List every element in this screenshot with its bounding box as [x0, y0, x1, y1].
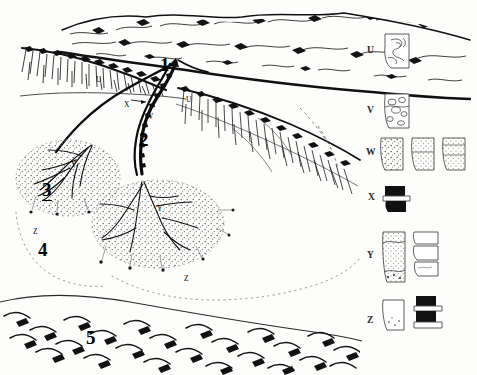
diagram-letter-x-scarp: X: [124, 101, 129, 109]
legend-letter-x: X: [368, 192, 375, 202]
legend-sample-Z-1: [383, 300, 404, 330]
legend-letter-u: U: [367, 45, 374, 55]
diagram-number-4: 4: [38, 240, 48, 259]
legend-sample-W-1: [381, 138, 403, 170]
diagram-letter-z-center: Z: [184, 275, 189, 283]
diagram-letter-u-left: U: [96, 76, 101, 84]
right-escarpment: [176, 86, 360, 194]
diagram-number-3: 3: [42, 180, 52, 201]
diagram-letter-y-left-fan: Y: [71, 161, 76, 169]
annotation-leader-x: [131, 100, 146, 104]
legend-sample-V: [385, 94, 409, 128]
legend-letter-v: V: [367, 105, 374, 115]
diagram-letter-z-left: Z: [33, 228, 38, 236]
legend-sample-Z-2: [414, 296, 442, 328]
legend-sample-W-2: [412, 138, 434, 170]
figure-canvas: 1 2 3 4 5 U U X W Y Y Z Z U V W X Y Z: [0, 0, 477, 375]
legend-sample-U: [385, 34, 409, 68]
legend-sample-Y-2: [413, 232, 438, 276]
legend-letter-z: Z: [367, 315, 373, 325]
diagram-letter-w-channel: W: [146, 113, 153, 121]
diagram-number-2: 2: [139, 130, 149, 149]
legend-sample-W-3: [443, 138, 465, 170]
foreground-slope: [0, 295, 362, 375]
legend-letter-w: W: [366, 147, 376, 157]
legend-sample-Y-1: [383, 232, 405, 282]
diagram-letter-y-center-fan: Y: [157, 205, 162, 213]
diagram-number-5: 5: [86, 328, 96, 347]
legend-letter-y: Y: [367, 250, 374, 260]
diagram-letter-u-right: U: [186, 96, 191, 104]
center-alluvial-fan: [92, 180, 235, 272]
block-diagram-artwork: [0, 0, 477, 375]
legend-sample-X: [383, 186, 410, 212]
diagram-number-1: 1: [160, 55, 170, 74]
legend-samples: [381, 34, 465, 330]
